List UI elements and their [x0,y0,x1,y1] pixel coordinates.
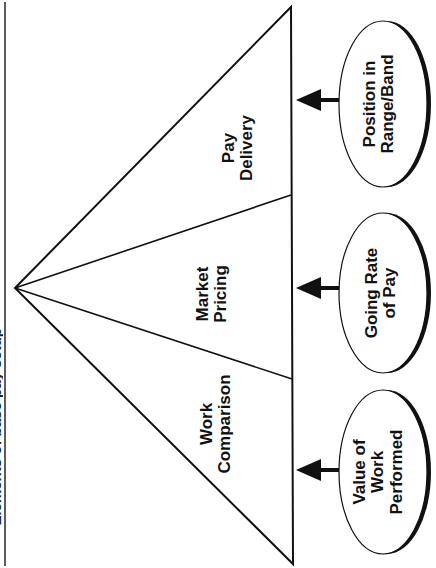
oval-label-line: Going Rate [363,238,381,348]
arrow-icon [296,459,342,481]
oval-label-position-in-range: Position in Range/Band [361,49,405,159]
oval-label-line: Performed [388,417,406,527]
arrow-icon [296,277,342,299]
oval-label-line: Value of [351,417,369,527]
segment-label-work-comparison: Work Comparison [198,364,242,484]
divider-line-bottom [15,288,292,379]
segment-label-pay-delivery: Pay Delivery [220,93,264,203]
arrow-icon [296,89,342,111]
segment-label-line: Delivery [238,93,256,203]
oval-label-going-rate: Going Rate of Pay [363,238,407,348]
pay-structure-diagram: Elements of base pay setup Pay Delivery … [0,0,436,568]
segment-label-line: Work [198,364,216,484]
segment-label-line: Market [194,244,212,344]
segment-label-line: Pay [220,93,238,203]
oval-label-line: Range/Band [379,49,397,159]
oval-label-line: Position in [361,49,379,159]
segment-label-market-pricing: Market Pricing [194,244,238,344]
segment-label-line: Comparison [216,364,234,484]
divider-line-top [15,195,291,288]
oval-label-line: of Pay [381,238,399,348]
oval-label-value-of-work: Value of Work Performed [351,417,415,527]
oval-label-line: Work [369,417,387,527]
triangle-outline [15,7,293,564]
diagram-title: Elements of base pay setup [0,328,3,568]
segment-label-line: Pricing [212,244,230,344]
